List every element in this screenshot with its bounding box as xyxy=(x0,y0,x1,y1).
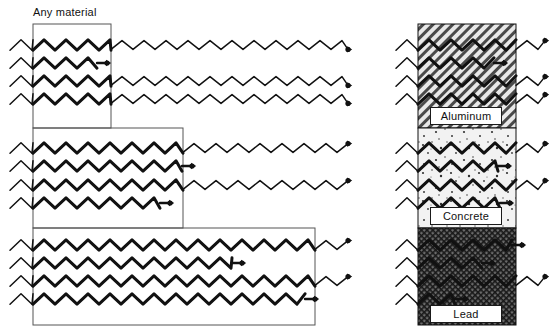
thick-slab-ray-3-body xyxy=(33,276,315,286)
medium-slab-ray-1-exit xyxy=(183,144,348,153)
medium-slab-ray-3-entry xyxy=(10,180,33,190)
concrete-block-ray-1-entry xyxy=(396,143,418,153)
thick-slab-ray-4-body xyxy=(33,294,305,304)
figure-canvas: Any material Aluminum Concrete Lead xyxy=(0,0,549,336)
thin-slab-ray-3-entry xyxy=(10,76,33,86)
any-material-label: Any material xyxy=(33,6,97,18)
concrete-label: Concrete xyxy=(430,207,502,225)
medium-slab-ray-1-body xyxy=(33,143,183,153)
lead-block-ray-3-exit xyxy=(516,277,545,286)
concrete-block-ray-4-entry xyxy=(396,198,418,208)
medium-slab-ray-2-body xyxy=(33,161,182,171)
aluminum-label: Aluminum xyxy=(430,107,502,125)
aluminum-block-ray-3-exit xyxy=(516,77,545,86)
medium-slab-ray-2-entry xyxy=(10,161,33,171)
thick-slab-ray-2-entry xyxy=(10,258,33,268)
aluminum-block-ray-2-entry xyxy=(396,58,418,68)
thin-slab-ray-4-body xyxy=(33,94,111,104)
medium-slab-ray-1-entry xyxy=(10,143,33,153)
aluminum-block-ray-1-entry xyxy=(396,40,418,50)
thin-slab-ray-1-exit xyxy=(111,41,348,50)
medium-slab-ray-4-body xyxy=(33,198,160,208)
thick-slab-ray-3-entry xyxy=(10,276,33,286)
aluminum-block-ray-4-entry xyxy=(396,94,418,104)
lead-block-ray-3-entry xyxy=(396,276,418,286)
thin-slab-ray-1-body xyxy=(33,40,111,50)
thin-slab-ray-2-body xyxy=(33,58,97,68)
radiation-attenuation-diagram xyxy=(0,0,549,336)
concrete-block-ray-1-exit xyxy=(516,144,545,153)
medium-slab-ray-3-body xyxy=(33,180,183,190)
left-panel-any-material xyxy=(10,24,352,325)
concrete-block-ray-2-entry xyxy=(396,161,418,171)
thin-slab-ray-3-exit xyxy=(111,77,348,86)
thin-slab-ray-4-exit xyxy=(111,95,348,104)
thick-slab-ray-1-entry xyxy=(10,240,33,250)
medium-slab-ray-3-exit xyxy=(183,181,348,190)
lead-label: Lead xyxy=(430,305,502,323)
thin-slab-ray-3-body xyxy=(33,76,111,86)
thick-slab-ray-1-exit xyxy=(315,241,348,250)
concrete-block-ray-3-exit xyxy=(516,181,545,190)
medium-slab-ray-4-entry xyxy=(10,198,33,208)
lead-block-ray-4-entry xyxy=(396,294,418,304)
thin-slab-ray-4-entry xyxy=(10,94,33,104)
thick-slab-ray-3-exit xyxy=(315,277,348,286)
aluminum-block-ray-4-exit xyxy=(516,95,545,104)
thin-slab-ray-1-entry xyxy=(10,40,33,50)
thick-slab-ray-4-entry xyxy=(10,294,33,304)
right-panel-materials xyxy=(396,24,549,325)
thick-slab-ray-2-body xyxy=(33,258,232,268)
lead-block-ray-1-entry xyxy=(396,240,418,250)
thin-slab-ray-2-entry xyxy=(10,58,33,68)
aluminum-block-ray-1-exit xyxy=(516,41,545,50)
concrete-block-ray-3-entry xyxy=(396,180,418,190)
lead-block-ray-2-entry xyxy=(396,258,418,268)
thick-slab-ray-1-body xyxy=(33,240,315,250)
aluminum-block-ray-3-entry xyxy=(396,76,418,86)
